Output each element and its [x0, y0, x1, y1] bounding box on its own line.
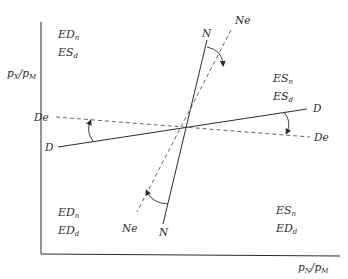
label-d-right: D — [312, 102, 322, 114]
label-n-bottom: N — [158, 226, 169, 238]
quadrant-bottom-left-line2: EDd — [57, 224, 80, 238]
label-ne-bottom: Ne — [121, 222, 137, 234]
quadrant-top-right-line1: ESn — [272, 72, 294, 86]
line-n — [163, 40, 207, 224]
y-axis-label: pX/pM — [7, 67, 37, 81]
quadrant-top-left-line1: EDn — [57, 28, 80, 42]
quadrant-top-right-line2: ESd — [272, 90, 294, 104]
label-de-left: De — [33, 111, 49, 123]
line-de — [56, 117, 310, 137]
rotation-arrow-left-icon — [89, 122, 93, 141]
label-ne-top: Ne — [234, 14, 250, 26]
quadrant-bottom-right-line1: ESn — [275, 204, 297, 218]
line-ne — [137, 30, 231, 212]
x-axis — [41, 254, 340, 256]
diagram-canvas: N Ne N Ne D D De De EDn ESd ESn ESd EDn … — [0, 0, 348, 279]
quadrant-top-left-line2: ESd — [57, 46, 79, 60]
label-d-left: D — [44, 141, 54, 153]
rotation-arrow-right-icon — [284, 112, 289, 132]
x-axis-label: pN/pM — [298, 261, 329, 275]
quadrant-bottom-right-line2: EDd — [275, 222, 298, 236]
label-n-top: N — [201, 27, 212, 39]
label-de-right: De — [313, 131, 329, 143]
rotation-arrow-bottom-icon — [147, 192, 168, 204]
quadrant-bottom-left-line1: EDn — [57, 206, 80, 220]
